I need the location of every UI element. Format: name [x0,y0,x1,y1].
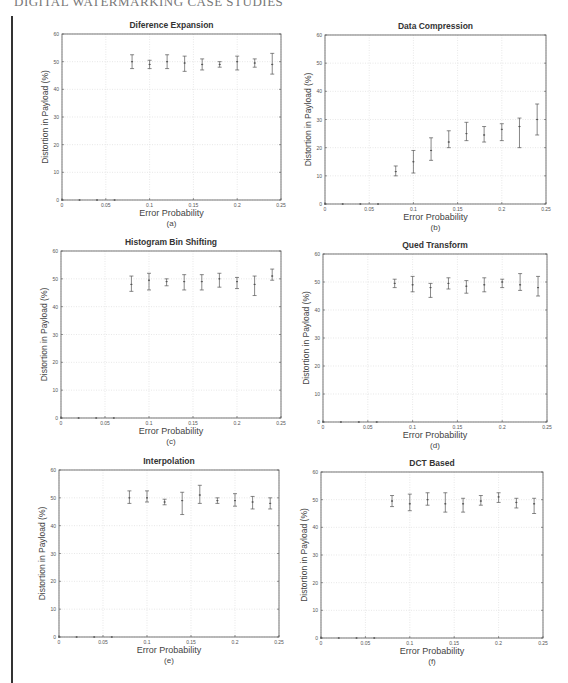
y-tick-label: 30 [312,552,318,558]
y-tick-label: 60 [312,469,318,475]
y-tick-label: 20 [316,145,322,151]
y-tick-label: 40 [53,86,59,92]
chart-panel-a: 00.050.10.150.20.250102030405060Diferenc… [62,34,281,204]
y-tick-label: 60 [52,248,58,254]
x-tick-label: 0.25 [276,202,286,208]
y-tick-label: 10 [314,391,320,397]
chart-panel-c: 00.050.10.150.20.250102030405060Histogra… [61,251,281,422]
x-axis-label: Error Probability [403,212,468,222]
chart-panel-b: 00.050.10.150.20.250102030405060Data Com… [325,35,546,208]
chart-title: Histogram Bin Shifting [125,237,217,247]
y-tick-label: 60 [316,32,322,38]
y-tick-label: 20 [53,142,59,148]
y-tick-label: 10 [316,173,322,179]
y-tick-label: 50 [314,279,320,285]
y-tick-label: 40 [312,524,318,530]
y-tick-label: 40 [50,523,56,529]
x-axis-label: Error Probability [137,645,202,655]
chart-svg: 00.050.10.150.20.250102030405060Histogra… [61,251,281,418]
page-header: DIGITAL WATERMARKING CASE STUDIES [14,0,283,10]
chart-svg: 00.050.10.150.20.250102030405060DCT Base… [321,472,543,638]
y-tick-label: 0 [53,634,56,640]
x-tick-label: 0 [320,640,323,646]
y-tick-label: 50 [53,59,59,65]
y-tick-label: 50 [52,276,58,282]
y-tick-label: 0 [317,419,320,425]
chart-title: Qued Transform [402,240,468,250]
x-tick-label: 0 [58,639,61,645]
chart-panel-d: 00.050.10.150.20.250102030405060Qued Tra… [323,254,547,426]
y-tick-label: 0 [315,635,318,641]
panel-caption: (a) [167,219,177,228]
y-tick-label: 40 [52,304,58,310]
y-tick-label: 10 [53,169,59,175]
y-tick-label: 50 [312,497,318,503]
panel-caption: (d) [430,441,440,450]
x-tick-label: 0.05 [361,640,371,646]
y-axis-label: Distortion in Payload (%) [301,291,311,385]
y-tick-label: 50 [316,60,322,66]
x-axis-label: Error Probability [400,646,465,656]
y-tick-label: 20 [50,578,56,584]
x-tick-label: 0.2 [234,420,241,426]
x-tick-label: 0.2 [498,206,505,212]
x-tick-label: 0.25 [274,639,284,645]
y-tick-label: 40 [314,307,320,313]
x-tick-label: 0.25 [542,424,552,430]
y-tick-label: 0 [56,197,59,203]
y-tick-label: 30 [50,551,56,557]
x-tick-label: 0.2 [234,202,241,208]
chart-title: Diference Expansion [129,20,213,30]
y-tick-label: 30 [316,117,322,123]
y-axis-label: Distortion in Payload (%) [303,73,313,167]
x-tick-label: 0.2 [495,640,502,646]
x-axis-label: Error Probability [403,430,468,440]
y-tick-label: 0 [55,415,58,421]
x-tick-label: 0.05 [101,202,111,208]
y-tick-label: 10 [50,606,56,612]
x-tick-label: 0.25 [276,420,286,426]
y-tick-label: 60 [314,251,320,257]
chart-panel-e: 00.050.10.150.20.250102030405060Interpol… [59,470,279,641]
x-tick-label: 0 [324,206,327,212]
chart-svg: 00.050.10.150.20.250102030405060Diferenc… [62,34,281,200]
chart-title: DCT Based [409,458,454,468]
panel-caption: (b) [431,223,441,232]
y-tick-label: 30 [53,114,59,120]
y-tick-label: 10 [312,607,318,613]
panel-caption: (f) [428,657,436,666]
chart-panel-f: 00.050.10.150.20.250102030405060DCT Base… [321,472,543,642]
y-axis-label: Distortion in Payload (%) [299,508,309,602]
chart-svg: 00.050.10.150.20.250102030405060Data Com… [325,35,546,204]
x-tick-label: 0.2 [232,639,239,645]
y-axis-label: Distortion in Payload (%) [37,507,47,601]
y-tick-label: 20 [312,580,318,586]
y-tick-label: 30 [52,332,58,338]
x-axis-label: Error Probability [139,208,204,218]
chart-title: Data Compression [398,21,473,31]
y-tick-label: 30 [314,335,320,341]
x-tick-label: 0.05 [363,424,373,430]
y-tick-label: 10 [52,387,58,393]
y-tick-label: 50 [50,495,56,501]
x-tick-label: 0.05 [98,639,108,645]
y-tick-label: 40 [316,88,322,94]
left-margin-rule [11,16,13,683]
chart-title: Interpolation [143,456,194,466]
y-axis-label: Distortion in Payload (%) [39,288,49,382]
chart-svg: 00.050.10.150.20.250102030405060Qued Tra… [323,254,547,422]
x-tick-label: 0 [60,420,63,426]
y-tick-label: 20 [52,359,58,365]
y-axis-label: Distortion in Payload (%) [40,70,50,164]
x-tick-label: 0 [322,424,325,430]
y-tick-label: 60 [53,31,59,37]
y-tick-label: 60 [50,467,56,473]
x-tick-label: 0.05 [364,206,374,212]
x-tick-label: 0 [61,202,64,208]
y-tick-label: 0 [319,201,322,207]
x-tick-label: 0.25 [541,206,551,212]
chart-svg: 00.050.10.150.20.250102030405060Interpol… [59,470,279,637]
panel-caption: (e) [164,656,174,665]
y-tick-label: 20 [314,363,320,369]
x-tick-label: 0.05 [100,420,110,426]
